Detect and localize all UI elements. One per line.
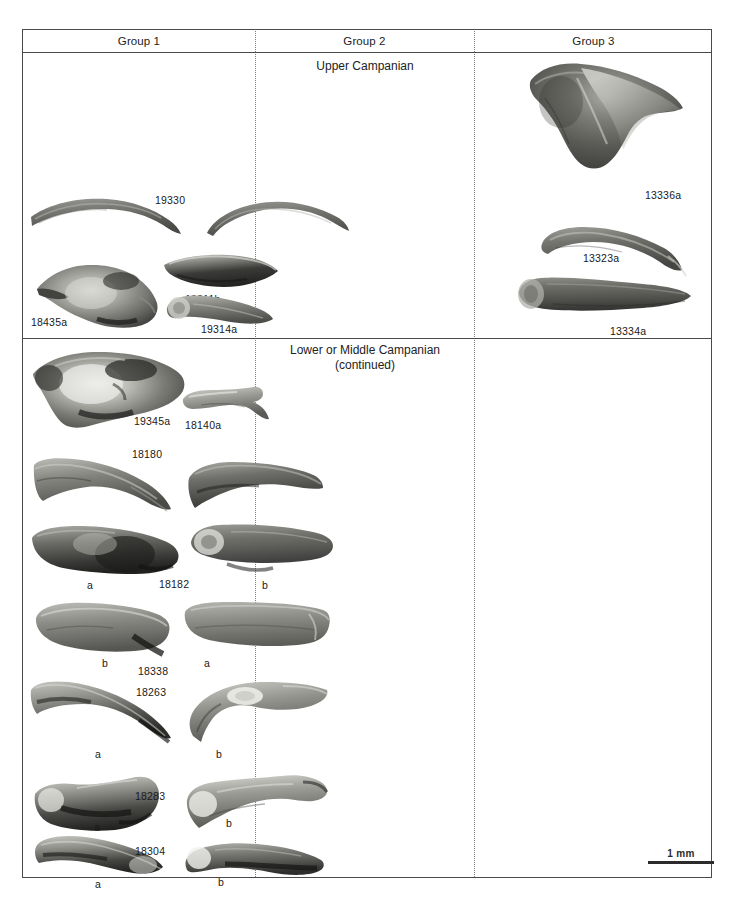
view-letter-18263-b: b — [216, 748, 222, 760]
section-divider — [23, 338, 711, 339]
specimen-image-13334a — [513, 274, 695, 318]
column-divider-header-1-2 — [255, 31, 256, 52]
specimen-label-18182: 18182 — [159, 578, 189, 590]
specimen-image-18304-b — [181, 836, 327, 882]
specimen-label-18140a: 18140a — [185, 419, 221, 431]
specimen-label-19345a: 19345a — [134, 415, 170, 427]
specimen-image-13323a — [536, 222, 691, 280]
specimen-image-18263-b — [183, 676, 331, 744]
column-divider-lower-2-3 — [474, 340, 475, 877]
view-letter-18304-a: a — [95, 878, 101, 890]
specimen-image-13336a — [515, 58, 685, 180]
view-letter-18338-b: b — [102, 657, 108, 669]
specimen-label-13334a: 13334a — [610, 325, 646, 337]
specimen-label-18263: 18263 — [136, 686, 166, 698]
column-header-group-1: Group 1 — [23, 30, 255, 52]
specimen-label-19330: 19330 — [155, 194, 185, 206]
stage-title-lower-middle-campanian: Lower or Middle Campanian (continued) — [235, 343, 495, 373]
specimen-label-18338: 18338 — [138, 665, 168, 677]
column-divider-upper-2-3 — [474, 54, 475, 337]
specimen-image-18182-b — [187, 520, 335, 576]
specimen-image-18338-b — [33, 600, 173, 660]
figure-plate: Group 1 Group 2 Group 3 Upper Campanian … — [22, 29, 712, 878]
specimen-image-18283-b — [181, 770, 329, 832]
specimen-label-13336a: 13336a — [645, 189, 681, 201]
specimen-image-18182-a — [29, 522, 181, 580]
specimen-label-18283: 18283 — [135, 790, 165, 802]
specimen-image-18283-a — [31, 772, 171, 834]
specimen-image-18180-right — [185, 456, 325, 516]
stage-title-upper-campanian: Upper Campanian — [235, 59, 495, 74]
view-letter-18283-b: b — [226, 817, 232, 829]
specimen-image-19330-right — [203, 195, 351, 241]
view-letter-18338-a: a — [204, 657, 210, 669]
specimen-label-13323a: 13323a — [583, 252, 619, 264]
specimen-image-18180-left — [31, 455, 175, 517]
specimen-image-19311b — [161, 251, 281, 291]
column-header-group-3: Group 3 — [474, 30, 713, 52]
stage-title-continued-note: (continued) — [235, 358, 495, 373]
scale-bar-label: 1 mm — [648, 848, 714, 860]
specimen-image-18338-a — [181, 598, 331, 654]
view-letter-18304-b: b — [218, 876, 224, 888]
column-header-row: Group 1 Group 2 Group 3 — [23, 30, 711, 53]
scale-bar: 1 mm — [648, 848, 714, 864]
specimen-label-18304: 18304 — [135, 845, 165, 857]
view-letter-18182-b: b — [262, 579, 268, 591]
scale-bar-line — [648, 861, 714, 864]
stage-title-lower-text: Lower or Middle Campanian — [290, 343, 440, 357]
specimen-label-18435a: 18435a — [31, 316, 67, 328]
view-letter-18283-a: a — [94, 821, 100, 833]
view-letter-18182-a: a — [87, 579, 93, 591]
column-divider-header-2-3 — [474, 31, 475, 52]
view-letter-18263-a: a — [95, 748, 101, 760]
specimen-label-19314a: 19314a — [201, 323, 237, 335]
column-header-group-2: Group 2 — [255, 30, 474, 52]
specimen-label-18180: 18180 — [132, 448, 162, 460]
